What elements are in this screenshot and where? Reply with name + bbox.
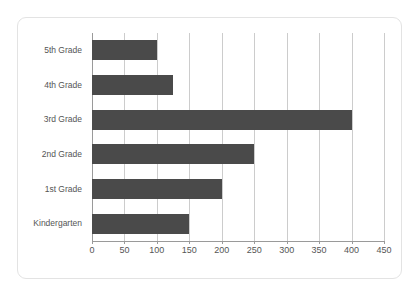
tick-mark-100 — [157, 241, 158, 244]
bar-3rd-grade[interactable] — [92, 110, 352, 130]
bar-4th-grade[interactable] — [92, 75, 173, 95]
tick-mark-400 — [352, 241, 353, 244]
bar-series — [92, 33, 384, 241]
x-tick-label-50: 50 — [119, 245, 129, 255]
tick-mark-450 — [384, 241, 385, 244]
tick-mark-200 — [222, 241, 223, 244]
tick-mark-350 — [319, 241, 320, 244]
bar-5th-grade[interactable] — [92, 40, 157, 60]
bar-row — [92, 206, 384, 241]
category-label-4th-grade: 4th Grade — [0, 68, 82, 103]
bar-2nd-grade[interactable] — [92, 144, 254, 164]
category-label-kindergarten: Kindergarten — [0, 206, 82, 241]
bar-row — [92, 102, 384, 137]
category-label-1st-grade: 1st Grade — [0, 172, 82, 207]
tick-mark-50 — [124, 241, 125, 244]
category-label-2nd-grade: 2nd Grade — [0, 137, 82, 172]
tick-mark-300 — [287, 241, 288, 244]
category-label-3rd-grade: 3rd Grade — [0, 102, 82, 137]
x-tick-label-400: 400 — [344, 245, 359, 255]
gridline-450 — [384, 33, 385, 241]
bar-kindergarten[interactable] — [92, 214, 189, 234]
x-tick-label-300: 300 — [279, 245, 294, 255]
x-tick-label-100: 100 — [149, 245, 164, 255]
plot-area — [92, 33, 384, 241]
tick-mark-0 — [92, 241, 93, 244]
bar-1st-grade[interactable] — [92, 179, 222, 199]
x-tick-label-200: 200 — [214, 245, 229, 255]
bar-row — [92, 33, 384, 68]
tick-mark-250 — [254, 241, 255, 244]
chart-card: 050100150200250300350400450 Kindergarten… — [17, 17, 402, 279]
tick-mark-150 — [189, 241, 190, 244]
x-tick-label-250: 250 — [247, 245, 262, 255]
bar-row — [92, 68, 384, 103]
x-tick-label-350: 350 — [312, 245, 327, 255]
bar-row — [92, 137, 384, 172]
x-axis-line — [92, 241, 385, 242]
x-tick-label-0: 0 — [89, 245, 94, 255]
x-tick-label-150: 150 — [182, 245, 197, 255]
x-tick-label-450: 450 — [376, 245, 391, 255]
bar-row — [92, 172, 384, 207]
category-label-5th-grade: 5th Grade — [0, 33, 82, 68]
